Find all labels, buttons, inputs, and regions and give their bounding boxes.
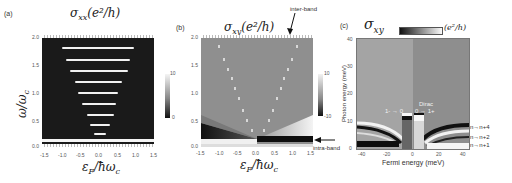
title-rest: (e²/h) [241, 20, 274, 34]
transition-line [62, 47, 134, 49]
panel-a-colorbar [165, 74, 170, 118]
transition-line [70, 70, 128, 72]
panel-c-xlabel: Fermi energy (meV) [382, 159, 444, 166]
xtick: -1.0 [215, 150, 224, 156]
ytick: 2.0 [191, 34, 198, 40]
transition-dot [287, 68, 289, 71]
xtick: 40 [460, 151, 466, 157]
ytick: 10 [347, 118, 353, 124]
xtick: -0.5 [233, 150, 242, 156]
transition-line [82, 103, 116, 105]
cbar-min: 0 [172, 114, 175, 120]
panel-c-colorbar [399, 27, 443, 35]
panel-c-label: (c) [340, 22, 348, 29]
ytick: 20 [347, 90, 353, 96]
panel-a-title: σxx(e²/h) [70, 6, 120, 22]
frame [42, 35, 154, 38]
dirac-transition-neg: 1- → 0 [385, 108, 403, 114]
xtick: 0.0 [95, 152, 102, 158]
ytick: 0.0 [191, 143, 198, 149]
panel-c-heatmap: Dirac 0 → 1+ 1- → 0 [356, 38, 470, 150]
xtick: 0.0 [252, 150, 259, 156]
panel-c-title: σxy [364, 16, 384, 35]
ytick: 0 [349, 145, 352, 151]
xtick: 1.5 [307, 150, 314, 156]
title-sigma: σ [224, 20, 232, 34]
panel-b-label: (b) [176, 24, 185, 31]
transition-dot [231, 77, 233, 80]
transition-dot [227, 68, 229, 71]
panel-a-xlabel: εF/ħωc [82, 160, 120, 176]
transition-dot [268, 119, 270, 122]
transition-dot [291, 58, 293, 61]
ytick: 2.0 [32, 34, 39, 40]
cbar-max: 10 [324, 70, 330, 76]
intra-band-arrow-icon [314, 136, 336, 144]
xtick: 0.5 [271, 150, 278, 156]
ytick: 1.0 [32, 90, 39, 96]
transition-dot [223, 58, 225, 61]
transition-line [78, 92, 118, 94]
panel-b-heatmap [201, 35, 313, 147]
xtick: -1.5 [40, 152, 49, 158]
transition-dot [246, 119, 248, 122]
title-sigma: σ [364, 16, 374, 32]
transition-line [66, 59, 130, 61]
ytick: 30 [347, 63, 353, 69]
panel-b-title: σxy(e²/h) [224, 20, 274, 36]
xtick: -40 [358, 151, 365, 157]
xtick: 1.0 [132, 152, 139, 158]
transition-line [94, 133, 106, 135]
heatmap-shading [201, 35, 313, 147]
transition-dot [296, 45, 298, 48]
ylabel-text: ω/ω [15, 94, 29, 118]
xlabel-sub2: c [274, 165, 278, 174]
panel-c-colorbar-unit: (e²/h) [444, 23, 466, 32]
dirac-transition-pos: 0 → 1+ [415, 108, 435, 114]
xtick: 1.0 [289, 150, 296, 156]
transition-dot [218, 45, 220, 48]
transition-dot [234, 87, 236, 90]
title-sub: xy [374, 25, 384, 35]
frame [42, 144, 154, 147]
xtick: -1.0 [58, 152, 67, 158]
ytick: 1.5 [191, 62, 198, 68]
cbar-min: -10 [324, 113, 331, 119]
title-sigma: σ [70, 6, 78, 20]
ylabel-sub: c [22, 90, 31, 94]
ytick: 0.5 [32, 118, 39, 124]
xtick: -0.5 [76, 152, 85, 158]
heatmap-shading [357, 39, 469, 149]
transition-dot [242, 109, 244, 112]
xtick: 1.5 [150, 152, 157, 158]
ytick: 40 [347, 36, 353, 42]
transition-line [90, 124, 110, 126]
transition-line [87, 114, 114, 116]
transition-dot [280, 87, 282, 90]
transition-dot [276, 97, 278, 100]
panel-a-heatmap [42, 35, 154, 147]
transition-dot [251, 129, 253, 132]
xlabel-rest: /ħω [94, 160, 116, 174]
inter-band-arrow-icon [284, 12, 298, 36]
xtick: 20 [436, 151, 442, 157]
title-sub: xx [78, 13, 87, 22]
ytick: 0.0 [32, 143, 39, 149]
panel-b-colorbar [318, 74, 323, 116]
panel-b-xlabel: εF/ħωc [240, 158, 278, 174]
xtick: 0 [411, 151, 414, 157]
dirac-label: Dirac [419, 101, 433, 107]
intra-band-label: intra-band [313, 145, 340, 151]
transition-dot [283, 77, 285, 80]
intraband-band [42, 139, 154, 142]
transition-dot [272, 109, 274, 112]
transition-line [75, 81, 122, 83]
title-rest: (e²/h) [87, 6, 120, 20]
transition-dot [263, 129, 265, 132]
panel-a-ylabel: ω/ωc [15, 90, 31, 118]
label-n-n4: n→n+4 [470, 124, 490, 130]
ytick: 0.5 [191, 118, 198, 124]
cbar-max: 10 [170, 70, 176, 76]
xtick: -20 [383, 151, 390, 157]
label-n-n1: n→n+1 [470, 142, 490, 148]
